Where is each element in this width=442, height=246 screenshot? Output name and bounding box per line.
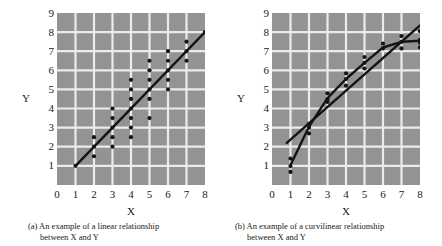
panel-a-xtick-1: 1 xyxy=(69,189,83,200)
panel-b-plot-area xyxy=(272,13,420,185)
panel-b-ytick-7: 7 xyxy=(255,46,269,57)
panel-a-linear-relationship: Y 9 8 7 6 5 4 3 2 1 xyxy=(0,0,221,246)
panel-a-ytick-1: 1 xyxy=(40,160,54,171)
panel-b-xtick-7: 7 xyxy=(395,189,409,200)
panel-b-ytick-9: 9 xyxy=(255,8,269,19)
panel-a-ytick-4: 4 xyxy=(40,103,54,114)
panel-b-ytick-3: 3 xyxy=(255,122,269,133)
panel-a-ytick-8: 8 xyxy=(40,27,54,38)
panel-b-ytick-5: 5 xyxy=(255,84,269,95)
panel-a-ytick-2: 2 xyxy=(40,141,54,152)
panel-b-x-axis-title: X xyxy=(336,206,356,217)
figure-two-scatterplots: Y 9 8 7 6 5 4 3 2 1 xyxy=(0,0,442,246)
panel-a-xtick-7: 7 xyxy=(180,189,194,200)
panel-b-ytick-1: 1 xyxy=(255,160,269,171)
panel-b-caption: (b) An example of a curvilinear relation… xyxy=(235,221,435,242)
panel-a-x-axis-title: X xyxy=(121,206,141,217)
panel-a-ytick-9: 9 xyxy=(40,8,54,19)
panel-a-xtick-2: 2 xyxy=(87,189,101,200)
panel-b-xtick-5: 5 xyxy=(358,189,372,200)
panel-b-ytick-6: 6 xyxy=(255,65,269,76)
panel-b-xtick-8: 8 xyxy=(413,189,427,200)
panel-b-ytick-2: 2 xyxy=(255,141,269,152)
panel-b-xtick-6: 6 xyxy=(376,189,390,200)
panel-b-xtick-2: 2 xyxy=(302,189,316,200)
panel-a-ytick-6: 6 xyxy=(40,65,54,76)
panel-b-xtick-3: 3 xyxy=(321,189,335,200)
panel-b-y-axis-title: Y xyxy=(237,93,245,104)
panel-a-caption-line1: (a) An example of a linear relationship xyxy=(28,221,159,231)
panel-a-ytick-7: 7 xyxy=(40,46,54,57)
panel-b-xtick-0: 0 xyxy=(265,189,279,200)
panel-a-ytick-5: 5 xyxy=(40,84,54,95)
panel-a-xtick-8: 8 xyxy=(198,189,212,200)
panel-a-xtick-5: 5 xyxy=(143,189,157,200)
panel-a-xtick-0: 0 xyxy=(50,189,64,200)
panel-a-xtick-6: 6 xyxy=(161,189,175,200)
panel-b-curvilinear-relationship: Y 9 8 7 6 5 4 3 2 1 xyxy=(221,0,442,246)
panel-b-xtick-4: 4 xyxy=(339,189,353,200)
panel-a-xtick-3: 3 xyxy=(106,189,120,200)
panel-b-ytick-8: 8 xyxy=(255,27,269,38)
panel-a-y-axis-title: Y xyxy=(22,93,30,104)
panel-a-caption-line2: between X and Y xyxy=(28,232,218,243)
panel-a-plot-area xyxy=(57,13,205,185)
panel-b-xtick-1: 1 xyxy=(284,189,298,200)
panel-b-ytick-4: 4 xyxy=(255,103,269,114)
panel-a-caption: (a) An example of a linear relationship … xyxy=(28,221,218,242)
panel-b-caption-line1: (b) An example of a curvilinear relation… xyxy=(235,221,384,231)
panel-a-ytick-3: 3 xyxy=(40,122,54,133)
panel-a-xtick-4: 4 xyxy=(124,189,138,200)
panel-b-caption-line2: between X and Y xyxy=(235,232,435,243)
